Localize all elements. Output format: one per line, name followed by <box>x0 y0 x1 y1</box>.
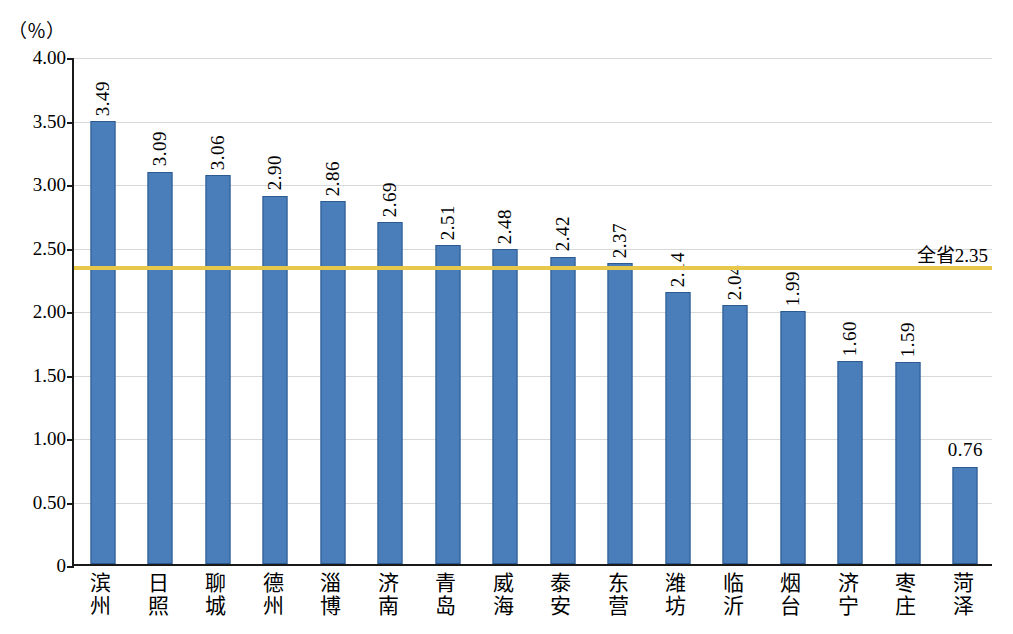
x-axis-labels: 滨州日照聊城德州淄博济南青岛威海泰安东营潍坊临沂烟台济宁枣庄菏泽 <box>72 572 992 634</box>
x-axis-label-char: 坊 <box>661 595 691 618</box>
y-axis-unit-label: （％） <box>8 16 65 43</box>
y-axis-tick-mark <box>67 376 74 378</box>
y-axis-tick-mark <box>67 122 74 124</box>
reference-line-layer: 全省2.35 <box>74 58 992 564</box>
x-axis-label-char: 东 <box>603 572 633 595</box>
x-axis-label: 威海 <box>488 572 518 617</box>
x-axis-label-char: 岛 <box>431 595 461 618</box>
x-axis-label-char: 临 <box>718 572 748 595</box>
x-axis-label-char: 德 <box>258 572 288 595</box>
x-axis-label-char: 营 <box>603 595 633 618</box>
x-axis-label: 济宁 <box>833 572 863 617</box>
x-axis-label-char: 济 <box>373 572 403 595</box>
x-axis-label: 烟台 <box>776 572 806 617</box>
province-average-label: 全省2.35 <box>917 240 988 267</box>
x-axis-label-char: 州 <box>86 595 116 618</box>
y-axis-tick-mark <box>67 439 74 441</box>
x-axis-label-char: 安 <box>546 595 576 618</box>
y-axis-tick-mark <box>67 58 74 60</box>
x-axis-label-char: 威 <box>488 572 518 595</box>
x-axis-label-char: 南 <box>373 595 403 618</box>
x-axis-label: 泰安 <box>546 572 576 617</box>
x-axis-label-char: 聊 <box>201 572 231 595</box>
province-average-line <box>74 266 992 270</box>
x-axis-label: 滨州 <box>86 572 116 617</box>
y-axis-tick-label: 3.00 <box>8 174 66 196</box>
x-axis-label-char: 泽 <box>948 595 978 618</box>
x-axis-label-char: 州 <box>258 595 288 618</box>
y-axis-tick-mark <box>67 249 74 251</box>
x-axis-label: 临沂 <box>718 572 748 617</box>
x-axis-label-char: 泰 <box>546 572 576 595</box>
x-axis-label-char: 济 <box>833 572 863 595</box>
x-axis-label-char: 日 <box>143 572 173 595</box>
y-axis-tick-label: 3.50 <box>8 111 66 133</box>
x-axis-label-char: 宁 <box>833 595 863 618</box>
x-axis-label: 日照 <box>143 572 173 617</box>
x-axis-label-char: 青 <box>431 572 461 595</box>
plot-area: 00.501.001.502.002.503.003.504.00 3.493.… <box>72 58 992 566</box>
y-axis-tick-mark <box>67 185 74 187</box>
x-axis-label: 淄博 <box>316 572 346 617</box>
x-axis-label: 菏泽 <box>948 572 978 617</box>
y-axis-tick-label: 0 <box>8 555 66 577</box>
x-axis-label-char: 海 <box>488 595 518 618</box>
x-axis-label: 东营 <box>603 572 633 617</box>
x-axis-label: 青岛 <box>431 572 461 617</box>
x-axis-label-char: 沂 <box>718 595 748 618</box>
x-axis-label-char: 枣 <box>891 572 921 595</box>
x-axis-label-char: 菏 <box>948 572 978 595</box>
y-axis-tick-mark <box>67 312 74 314</box>
x-axis-label: 济南 <box>373 572 403 617</box>
x-axis-label: 德州 <box>258 572 288 617</box>
x-axis-label-char: 城 <box>201 595 231 618</box>
y-axis-tick-label: 0.50 <box>8 492 66 514</box>
y-axis-tick-label: 2.50 <box>8 238 66 260</box>
y-axis-tick-mark <box>67 566 74 568</box>
x-axis-label-char: 照 <box>143 595 173 618</box>
y-axis-tick-label: 1.00 <box>8 428 66 450</box>
x-axis-label-char: 淄 <box>316 572 346 595</box>
y-axis-tick-label: 1.50 <box>8 365 66 387</box>
x-axis-label-char: 潍 <box>661 572 691 595</box>
x-axis-label: 潍坊 <box>661 572 691 617</box>
y-axis-tick-label: 2.00 <box>8 301 66 323</box>
x-axis-label: 枣庄 <box>891 572 921 617</box>
y-axis-tick-label: 4.00 <box>8 47 66 69</box>
x-axis-label-char: 庄 <box>891 595 921 618</box>
x-axis-label: 聊城 <box>201 572 231 617</box>
y-axis-tick-mark <box>67 503 74 505</box>
x-axis-label-char: 烟 <box>776 572 806 595</box>
chart-container: （％） 00.501.001.502.002.503.003.504.00 3.… <box>0 0 1013 634</box>
x-axis-label-char: 滨 <box>86 572 116 595</box>
x-axis-label-char: 博 <box>316 595 346 618</box>
x-axis-label-char: 台 <box>776 595 806 618</box>
